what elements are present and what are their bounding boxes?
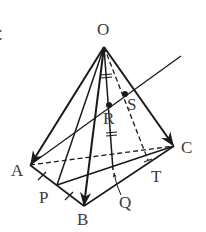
vector-oc [104,47,173,145]
label-a: A [11,162,23,179]
label-o: O [97,21,109,38]
label-p: P [39,189,48,206]
pyramid-diagram: ： O A B C P Q R S T [0,0,206,232]
tick-or-2 [101,77,112,78]
tick-or-1 [101,74,112,75]
label-t: T [151,168,161,185]
label-c: C [181,139,192,156]
label-q: Q [119,194,131,211]
label-s: S [127,96,136,113]
vector-oa [31,47,104,164]
label-r: R [103,110,114,127]
label-b: B [77,211,88,228]
point-r [106,102,112,108]
tick-rq-2 [106,135,117,136]
tick-rq-1 [106,132,117,133]
vector-ob [84,47,104,205]
cropped-text-glyph: ： [0,27,11,41]
